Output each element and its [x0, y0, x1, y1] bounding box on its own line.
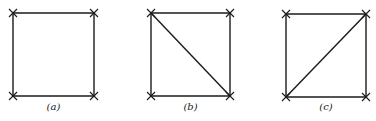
diagram-canvas: (a)(b)(c): [0, 0, 376, 121]
diagonal-edge: [286, 14, 366, 97]
figure-label: (a): [47, 101, 61, 112]
figure-c: (c): [282, 10, 370, 112]
figure-label: (c): [319, 101, 333, 112]
figure-b: (b): [147, 9, 234, 112]
figure-a: (a): [9, 9, 98, 112]
figure-label: (b): [183, 101, 197, 112]
diagonal-edge: [151, 13, 230, 96]
